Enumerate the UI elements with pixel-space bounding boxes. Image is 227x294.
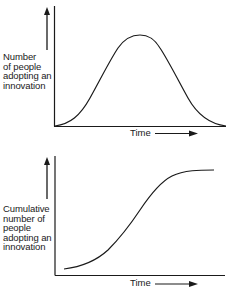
y-axis-label: Cumulative number of people adopting an …	[3, 204, 52, 252]
y-axis-label: Number of people adopting an innovation	[3, 52, 52, 90]
x-direction-arrow-icon	[155, 131, 198, 137]
s-curve-line	[64, 170, 214, 269]
x-axis-label: Time	[130, 278, 151, 288]
y-direction-arrow-icon	[44, 157, 50, 199]
x-direction-arrow-icon	[155, 281, 198, 287]
y-axis-label-line: innovation	[3, 81, 52, 91]
adoption-rate-chart: Number of people adopting an innovation …	[0, 0, 227, 148]
bell-curve-line	[55, 35, 226, 126]
x-axis-label: Time	[130, 128, 151, 138]
y-axis-label-line: innovation	[3, 242, 52, 252]
y-direction-arrow-icon	[44, 7, 50, 50]
cumulative-adoption-chart: Cumulative number of people adopting an …	[0, 150, 227, 294]
